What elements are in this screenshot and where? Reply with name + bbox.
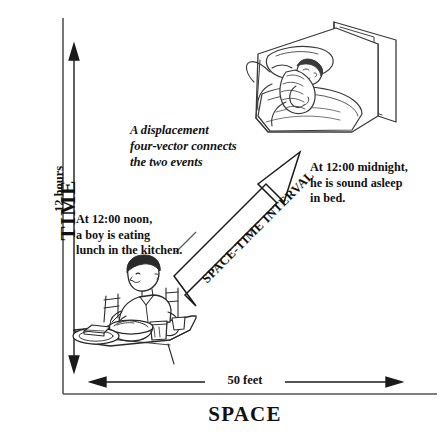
caption-midnight-event: At 12:00 midnight, he is sound asleep in… — [310, 160, 408, 207]
boy-eating-lunch-illustration — [73, 255, 196, 364]
spacetime-interval-block-arrow — [174, 152, 300, 306]
caption-noon-event: At 12:00 noon, a boy is eating lunch in … — [76, 212, 182, 259]
fifty-feet-tick-label: 50 feet — [205, 372, 285, 388]
space-axis-label: SPACE — [145, 402, 345, 427]
twelve-hours-tick-label: 12 hours — [50, 144, 68, 234]
spacetime-interval-diagram: TIME 12 hours SPACE 50 feet At 12:00 noo… — [0, 0, 440, 437]
spacetime-interval-arrow-label: SPACE-TIME INTERVAL — [195, 164, 321, 290]
caption-four-vector: A displacement four-vector connects the … — [130, 122, 237, 170]
boy-asleep-in-bed-illustration — [247, 22, 396, 132]
